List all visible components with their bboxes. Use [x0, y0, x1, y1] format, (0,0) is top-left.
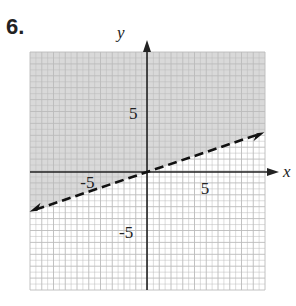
y-tick-label: 5: [129, 104, 138, 123]
x-tick-label: -5: [80, 173, 94, 192]
x-axis-arrow-icon: [267, 168, 279, 176]
y-tick-label: -5: [119, 223, 133, 242]
y-axis-arrow-icon: [143, 40, 151, 52]
x-axis-label: x: [282, 162, 291, 181]
y-axis-label: y: [115, 23, 125, 42]
inequality-graph: xy-555-5: [0, 0, 296, 306]
x-tick-label: 5: [201, 179, 210, 198]
